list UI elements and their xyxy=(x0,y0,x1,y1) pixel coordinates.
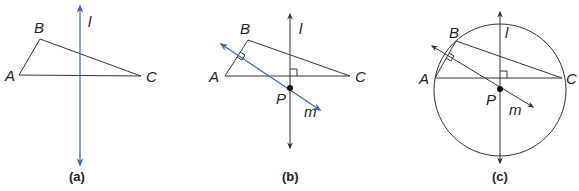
label-line-l: l xyxy=(505,24,509,41)
caption-c: (c) xyxy=(492,169,508,184)
label-point-c: C xyxy=(355,68,366,85)
label-line-m: m xyxy=(304,103,317,120)
caption-b: (b) xyxy=(282,169,299,184)
caption-a: (a) xyxy=(69,169,85,184)
label-point-p: P xyxy=(276,90,286,107)
point-p xyxy=(287,85,293,91)
geometry-figure: A B C l (a) A B C P l m (b) A B C P l m xyxy=(0,0,579,191)
label-point-c: C xyxy=(566,70,577,87)
line-m xyxy=(432,46,533,107)
label-line-l: l xyxy=(299,20,303,37)
label-point-b: B xyxy=(240,20,250,37)
right-angle-mark-ac xyxy=(500,71,507,78)
label-point-a: A xyxy=(4,67,15,84)
label-point-b: B xyxy=(34,19,44,36)
right-angle-mark-ac xyxy=(290,69,297,76)
label-line-m: m xyxy=(509,101,522,118)
label-point-p: P xyxy=(486,91,496,108)
label-point-c: C xyxy=(146,68,157,85)
label-point-a: A xyxy=(418,70,429,87)
label-point-b: B xyxy=(449,24,459,41)
line-m xyxy=(221,44,320,110)
label-line-l: l xyxy=(88,13,92,30)
label-point-a: A xyxy=(208,68,219,85)
panel-b: A B C P l m (b) xyxy=(208,14,366,184)
point-p xyxy=(497,86,503,92)
panel-a: A B C l (a) xyxy=(4,6,157,184)
panel-c: A B C P l m (c) xyxy=(418,12,577,184)
